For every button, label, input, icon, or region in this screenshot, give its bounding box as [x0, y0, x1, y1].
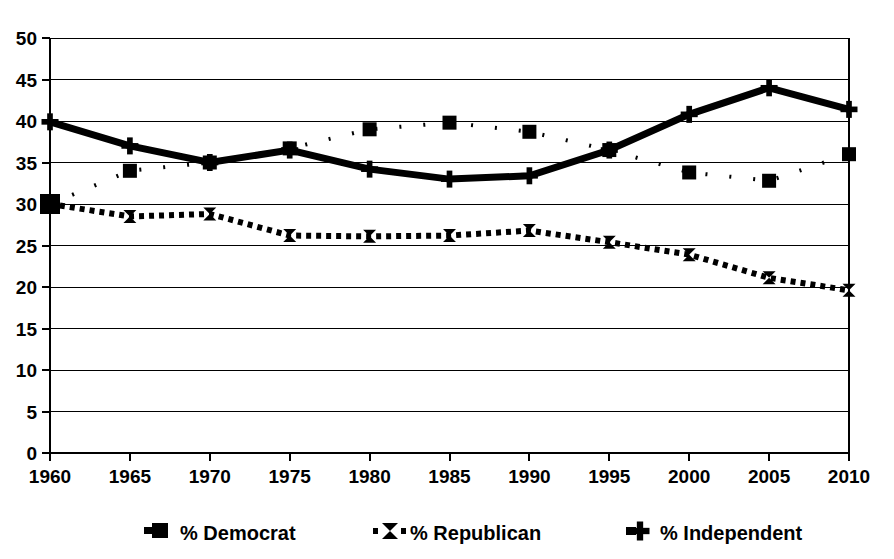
series-percent-republican — [44, 198, 856, 297]
square-marker — [522, 125, 536, 139]
cross-marker — [127, 137, 133, 154]
hourglass-marker — [203, 207, 216, 220]
x-tick-label: 1965 — [109, 466, 152, 487]
line-chart: 05101520253035404550 1960196519701975198… — [0, 0, 894, 559]
y-tick-label: 40 — [16, 111, 37, 132]
x-tick-label: 1975 — [269, 466, 312, 487]
cross-marker — [846, 101, 852, 118]
y-tick-label: 10 — [16, 360, 37, 381]
cross-marker — [626, 527, 636, 535]
legend-item: % Democrat — [144, 522, 296, 544]
legend-item: % Republican — [373, 522, 541, 544]
square-marker — [682, 165, 696, 179]
x-tick-label: 1995 — [588, 466, 631, 487]
hourglass-marker — [603, 236, 616, 249]
y-tick-label: 35 — [16, 153, 38, 174]
square-marker — [123, 164, 137, 178]
legend-label: % Republican — [410, 522, 541, 544]
y-tick-label: 45 — [16, 70, 38, 91]
y-tick-label: 15 — [16, 319, 38, 340]
legend-label: % Independent — [660, 522, 803, 544]
cross-marker — [686, 106, 692, 123]
x-tick-label: 1990 — [508, 466, 550, 487]
series-line — [50, 204, 849, 290]
legend-item: % Independent — [626, 522, 803, 545]
cross-marker — [527, 167, 533, 184]
x-tick-label: 1980 — [348, 466, 390, 487]
chart-container: 05101520253035404550 1960196519701975198… — [0, 0, 894, 559]
cross-marker — [766, 79, 772, 96]
cross-marker — [367, 161, 373, 178]
hourglass-marker — [523, 224, 536, 237]
y-tick-label: 0 — [26, 443, 37, 464]
square-marker — [144, 527, 153, 534]
square-marker — [40, 194, 60, 214]
y-axis-tick-labels: 05101520253035404550 — [16, 28, 50, 464]
y-tick-label: 25 — [16, 236, 38, 257]
hourglass-marker — [363, 230, 376, 243]
square-marker — [762, 174, 776, 188]
cross-marker — [287, 142, 293, 159]
chart-legend: % Democrat% Republican% Independent — [144, 522, 803, 545]
x-tick-label: 1985 — [428, 466, 471, 487]
x-axis-tick-labels: 1960196519701975198019851990199520002005… — [29, 453, 870, 487]
x-tick-label: 2005 — [748, 466, 791, 487]
x-tick-label: 1970 — [189, 466, 231, 487]
square-marker — [363, 122, 377, 136]
x-tick-label: 2010 — [828, 466, 870, 487]
cross-marker — [606, 142, 612, 159]
hourglass-marker — [283, 229, 296, 242]
square-marker — [152, 523, 168, 538]
hourglass-marker — [443, 229, 456, 242]
y-tick-label: 50 — [16, 28, 37, 49]
hourglass-marker — [382, 523, 398, 539]
x-tick-label: 2000 — [668, 466, 710, 487]
cross-marker — [47, 113, 53, 130]
x-tick-label: 1960 — [29, 466, 71, 487]
cross-marker — [207, 154, 213, 171]
dot-marker — [373, 528, 378, 534]
y-tick-label: 30 — [16, 194, 37, 215]
y-tick-label: 5 — [26, 402, 37, 423]
square-marker — [443, 116, 457, 130]
y-tick-label: 20 — [16, 277, 37, 298]
square-marker — [842, 147, 856, 161]
cross-marker — [637, 522, 643, 541]
legend-label: % Democrat — [180, 522, 296, 544]
series-line — [50, 88, 849, 179]
series-percent-democrat — [40, 116, 856, 214]
dot-marker — [401, 528, 406, 534]
series-line — [50, 123, 849, 204]
series-percent-independent — [42, 79, 858, 187]
cross-marker — [447, 171, 453, 188]
